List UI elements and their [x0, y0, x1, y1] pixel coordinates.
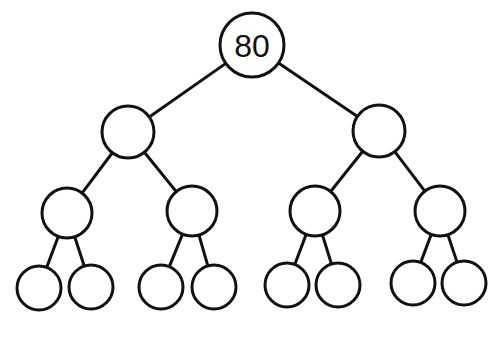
tree-edge — [169, 234, 182, 266]
tree-node — [139, 265, 183, 309]
tree-edge — [144, 152, 176, 191]
binary-tree-diagram: 80 — [0, 0, 500, 346]
tree-edge — [322, 235, 331, 264]
node-circle — [69, 265, 113, 309]
tree-node — [316, 263, 360, 307]
tree-node — [17, 266, 61, 310]
tree-node — [290, 186, 340, 236]
node-circle — [316, 263, 360, 307]
tree-edge — [149, 63, 226, 117]
tree-edge — [395, 152, 425, 191]
tree-node — [391, 261, 435, 305]
node-label: 80 — [234, 28, 270, 64]
node-circle — [353, 105, 405, 157]
tree-edge — [421, 234, 431, 262]
tree-node — [42, 188, 92, 238]
tree-edge — [82, 153, 112, 193]
tree-edge — [47, 236, 59, 267]
node-circle — [290, 186, 340, 236]
tree-node — [353, 105, 405, 157]
tree-edge — [331, 151, 363, 191]
tree-node — [167, 186, 217, 236]
node-circle — [17, 266, 61, 310]
tree-node — [415, 186, 465, 236]
node-circle — [42, 188, 92, 238]
node-circle — [167, 186, 217, 236]
node-circle — [442, 261, 486, 305]
tree-edge — [448, 235, 457, 262]
tree-edge — [278, 63, 357, 116]
tree-edge — [199, 235, 208, 266]
node-circle — [102, 106, 154, 158]
tree-node — [192, 265, 236, 309]
node-circle — [265, 263, 309, 307]
node-circle — [415, 186, 465, 236]
node-circle — [391, 261, 435, 305]
tree-edge — [75, 237, 85, 266]
node-circle — [139, 265, 183, 309]
node-circle — [192, 265, 236, 309]
tree-node — [442, 261, 486, 305]
tree-node — [69, 265, 113, 309]
tree-nodes: 80 — [17, 13, 486, 310]
tree-node — [265, 263, 309, 307]
tree-node — [102, 106, 154, 158]
tree-root-node: 80 — [220, 13, 284, 77]
tree-edges — [47, 63, 457, 267]
tree-edge — [295, 234, 306, 264]
